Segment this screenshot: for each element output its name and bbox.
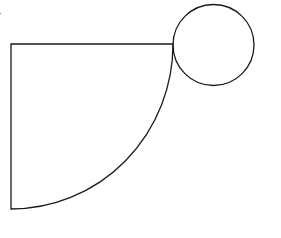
diagram-canvas bbox=[0, 0, 281, 238]
quarter-circle-sector bbox=[11, 44, 173, 209]
tangent-circle bbox=[173, 5, 254, 86]
stray-mark bbox=[0, 13, 1, 14]
